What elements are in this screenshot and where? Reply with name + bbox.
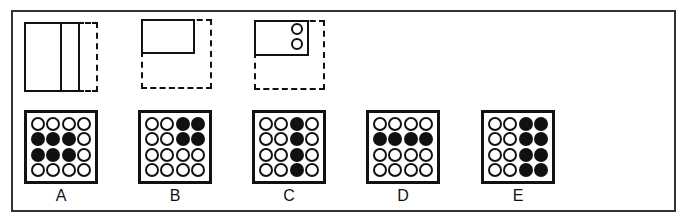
divider-line (60, 22, 62, 92)
empty-circle-icon (259, 117, 273, 131)
empty-circle-icon (404, 117, 418, 131)
option-a-label: A (24, 187, 98, 205)
empty-circle-icon (160, 148, 174, 162)
empty-circle-icon (77, 117, 91, 131)
empty-circle-icon (388, 148, 402, 162)
filled-circle-icon (534, 132, 548, 146)
filled-circle-icon (176, 132, 190, 146)
filled-circle-icon (31, 132, 45, 146)
option-c[interactable] (252, 110, 326, 184)
empty-circle-icon (503, 132, 517, 146)
filled-circle-icon (290, 132, 304, 146)
empty-circle-icon (404, 163, 418, 177)
empty-circle-icon (419, 148, 433, 162)
empty-circle-icon (77, 132, 91, 146)
empty-circle-icon (46, 117, 60, 131)
filled-circle-icon (290, 163, 304, 177)
empty-circle-icon (488, 163, 502, 177)
puzzle-frame (11, 10, 676, 212)
empty-circle-icon (305, 148, 319, 162)
empty-circle-icon (160, 117, 174, 131)
empty-circle-icon (145, 132, 159, 146)
filled-circle-icon (534, 148, 548, 162)
option-e[interactable] (481, 110, 555, 184)
filled-circle-icon (176, 117, 190, 131)
empty-circle-icon (488, 117, 502, 131)
empty-circle-icon (488, 132, 502, 146)
solid-rectangle (141, 19, 195, 54)
filled-circle-icon (534, 163, 548, 177)
empty-circle-icon (274, 163, 288, 177)
empty-circle-icon (373, 117, 387, 131)
empty-circle-icon (274, 117, 288, 131)
empty-circle-icon (191, 163, 205, 177)
filled-circle-icon (46, 132, 60, 146)
filled-circle-icon (191, 132, 205, 146)
empty-circle-icon (259, 148, 273, 162)
empty-circle-icon (503, 148, 517, 162)
empty-circle-icon (31, 117, 45, 131)
option-e-label: E (481, 187, 555, 205)
option-a[interactable] (24, 110, 98, 184)
empty-circle-icon (145, 148, 159, 162)
filled-circle-icon (31, 148, 45, 162)
empty-circle-icon (31, 163, 45, 177)
empty-circle-icon (305, 163, 319, 177)
option-b-label: B (138, 187, 212, 205)
option-d-label: D (366, 187, 440, 205)
filled-circle-icon (46, 148, 60, 162)
empty-circle-icon (388, 163, 402, 177)
empty-circle-icon (145, 163, 159, 177)
filled-circle-icon (519, 132, 533, 146)
filled-circle-icon (62, 132, 76, 146)
filled-circle-icon (191, 117, 205, 131)
empty-circle-icon (419, 117, 433, 131)
empty-circle-icon (503, 163, 517, 177)
empty-circle-icon (176, 148, 190, 162)
filled-circle-icon (534, 117, 548, 131)
empty-circle-icon (46, 163, 60, 177)
empty-circle-icon (77, 148, 91, 162)
filled-circle-icon (519, 163, 533, 177)
circle-icon (291, 38, 303, 50)
empty-circle-icon (404, 148, 418, 162)
empty-circle-icon (373, 148, 387, 162)
empty-circle-icon (274, 132, 288, 146)
option-d[interactable] (366, 110, 440, 184)
filled-circle-icon (290, 117, 304, 131)
empty-circle-icon (191, 148, 205, 162)
empty-circle-icon (160, 163, 174, 177)
option-b[interactable] (138, 110, 212, 184)
empty-circle-icon (388, 117, 402, 131)
empty-circle-icon (62, 117, 76, 131)
empty-circle-icon (259, 132, 273, 146)
empty-circle-icon (373, 163, 387, 177)
empty-circle-icon (160, 132, 174, 146)
empty-circle-icon (62, 163, 76, 177)
empty-circle-icon (305, 132, 319, 146)
empty-circle-icon (503, 117, 517, 131)
dashed-extension (78, 22, 98, 92)
filled-circle-icon (290, 148, 304, 162)
empty-circle-icon (305, 117, 319, 131)
empty-circle-icon (488, 148, 502, 162)
filled-circle-icon (388, 132, 402, 146)
filled-circle-icon (519, 148, 533, 162)
filled-circle-icon (519, 117, 533, 131)
filled-circle-icon (419, 132, 433, 146)
empty-circle-icon (259, 163, 273, 177)
empty-circle-icon (145, 117, 159, 131)
filled-circle-icon (62, 148, 76, 162)
empty-circle-icon (274, 148, 288, 162)
filled-circle-icon (404, 132, 418, 146)
option-c-label: C (252, 187, 326, 205)
empty-circle-icon (419, 163, 433, 177)
solid-rectangle (24, 22, 80, 92)
empty-circle-icon (77, 163, 91, 177)
filled-circle-icon (373, 132, 387, 146)
empty-circle-icon (176, 163, 190, 177)
circle-icon (291, 23, 303, 35)
